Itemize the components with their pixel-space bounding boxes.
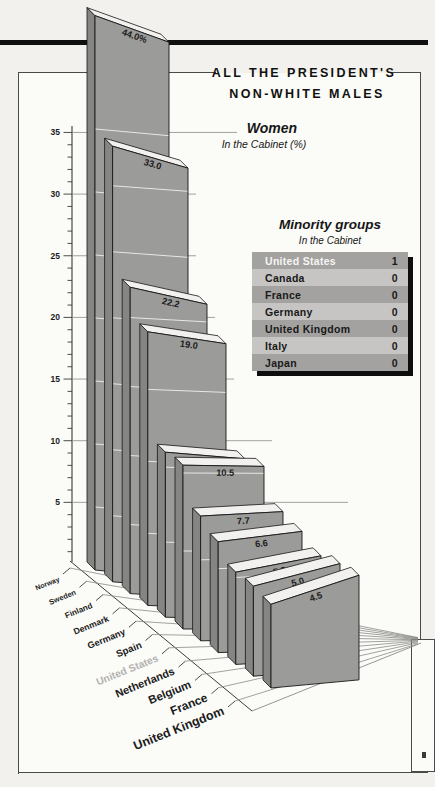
table-cell-value: 1	[392, 255, 398, 267]
table-cell-value: 0	[392, 357, 398, 369]
chart-subtitle: In the Cabinet (%)	[222, 138, 307, 150]
minority-table-subtitle: In the Cabinet	[299, 235, 361, 246]
table-row: United Kingdom0	[252, 320, 408, 337]
page-artifact	[422, 752, 426, 758]
table-cell-country: Japan	[265, 357, 297, 369]
table-cell-value: 0	[392, 323, 398, 335]
table-cell-value: 0	[392, 306, 398, 318]
table-row: Italy0	[252, 337, 408, 354]
table-row: Germany0	[252, 303, 408, 320]
chart-panel-background	[18, 73, 420, 773]
table-cell-country: France	[265, 289, 301, 301]
panel-border-right	[420, 72, 421, 640]
table-cell-country: Italy	[265, 340, 288, 352]
page-title-line1: ALL THE PRESIDENT'S	[212, 66, 396, 80]
table-cell-country: Canada	[265, 272, 305, 284]
table-cell-country: Germany	[265, 306, 313, 318]
minority-table-title: Minority groups	[279, 217, 381, 232]
table-row: Japan0	[252, 354, 408, 371]
panel-border-bottom	[18, 772, 428, 773]
table-cell-value: 0	[392, 289, 398, 301]
table-cell-country: United States	[265, 255, 336, 267]
chart-title: Women	[247, 120, 297, 136]
top-rule	[0, 40, 428, 45]
panel-border-top	[18, 72, 216, 73]
table-cell-country: United Kingdom	[265, 323, 350, 335]
table-row: France0	[252, 286, 408, 303]
table-row: United States1	[252, 252, 408, 269]
table-cell-value: 0	[392, 272, 398, 284]
table-row: Canada0	[252, 269, 408, 286]
minority-table: United States1Canada0France0Germany0Unit…	[252, 252, 408, 371]
table-cell-value: 0	[392, 340, 398, 352]
panel-border-left	[18, 72, 19, 774]
page-title-line2: NON-WHITE MALES	[229, 87, 384, 101]
